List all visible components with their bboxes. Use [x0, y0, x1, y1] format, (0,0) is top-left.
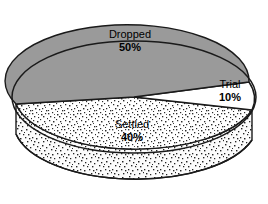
- slice-label-dropped-name: Dropped: [84, 28, 176, 41]
- slice-label-settled-name: Settled: [92, 118, 172, 131]
- slice-label-dropped: Dropped 50%: [84, 28, 176, 54]
- slice-label-trial-name: Trial: [200, 78, 260, 91]
- slice-label-settled-value: 40%: [92, 131, 172, 144]
- slice-label-settled: Settled 40%: [92, 118, 172, 144]
- slice-label-trial: Trial 10%: [200, 78, 260, 104]
- slice-label-trial-value: 10%: [200, 91, 260, 104]
- pie-chart-figure: Dropped 50% Trial 10% Settled 40%: [0, 0, 268, 204]
- slice-label-dropped-value: 50%: [84, 41, 176, 54]
